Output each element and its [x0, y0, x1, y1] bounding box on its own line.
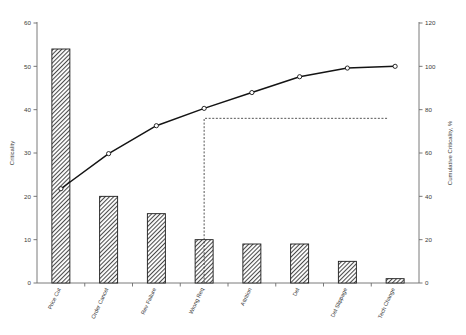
y-axis-left-tick-label: 20	[24, 193, 31, 200]
y-axis-left-tick-label: 10	[24, 236, 31, 243]
cumulative-marker	[59, 187, 63, 191]
y-axis-right-title: Cumulative Criticality, %	[447, 120, 453, 185]
y-axis-left-tick-label: 40	[24, 106, 31, 113]
bar	[338, 261, 356, 283]
y-axis-left-tick-label: 30	[24, 149, 31, 156]
y-axis-right-tick-label: 60	[425, 149, 432, 156]
y-axis-right-tick-label: 80	[425, 106, 432, 113]
cumulative-marker	[298, 75, 302, 79]
cumulative-marker	[250, 90, 254, 94]
y-axis-left-title: Criticality	[9, 141, 15, 165]
y-axis-right-tick-label: 100	[425, 63, 436, 70]
bar	[386, 279, 404, 283]
bar	[147, 214, 165, 283]
y-axis-left-tick-label: 60	[24, 19, 31, 26]
pareto-chart: 0102030405060 020406080100120 Price CutO…	[0, 0, 466, 335]
y-axis-right-tick-label: 120	[425, 19, 436, 26]
chart-canvas: 0102030405060 020406080100120 Price CutO…	[0, 0, 466, 335]
y-axis-right-tick-label: 0	[425, 279, 429, 286]
y-axis-left-tick-label: 50	[24, 63, 31, 70]
cumulative-marker	[345, 66, 349, 70]
bar	[291, 244, 309, 283]
bar	[52, 49, 70, 283]
cumulative-marker	[107, 152, 111, 156]
y-axis-right-tick-label: 40	[425, 193, 432, 200]
cumulative-marker	[202, 106, 206, 110]
cumulative-marker	[154, 124, 158, 128]
y-axis-right-tick-label: 20	[425, 236, 432, 243]
y-axis-left-tick-label: 0	[28, 279, 32, 286]
cumulative-marker	[393, 64, 397, 68]
bar	[100, 196, 118, 283]
bar	[243, 244, 261, 283]
